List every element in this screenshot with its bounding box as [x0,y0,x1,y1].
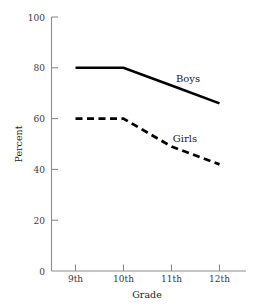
y-axis-title: Percent [13,125,24,162]
x-tick-label-10th: 10th [113,274,134,284]
line-chart: 100 80 60 40 20 0 9th 10th 11th 12th Gra… [0,0,263,307]
x-tick-label-12th: 12th [209,274,230,284]
y-tick-label-20: 20 [34,216,46,226]
y-tick-label-100: 100 [28,13,45,23]
series-label-girls: Girls [173,133,197,144]
x-tick-label-9th: 9th [68,274,83,284]
x-tick-label-11th: 11th [161,274,182,284]
x-axis-title: Grade [132,289,162,300]
y-tick-label-40: 40 [34,165,46,175]
chart-container: 100 80 60 40 20 0 9th 10th 11th 12th Gra… [0,0,263,307]
y-tick-label-0: 0 [39,267,45,277]
series-label-boys: Boys [176,73,200,84]
chart-background [0,0,263,307]
y-tick-label-60: 60 [34,114,46,124]
y-tick-label-80: 80 [34,63,46,73]
